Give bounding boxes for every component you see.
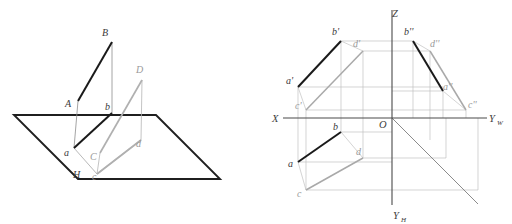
label-c-side: c'' [468, 99, 478, 110]
label-b-top: b [333, 121, 338, 132]
label-c: c [92, 171, 97, 182]
label-C: C [90, 151, 97, 162]
projection-figure: B D A b a C c d H [0, 0, 512, 224]
axis-label-z: Z [392, 8, 398, 19]
label-c-front: c' [295, 100, 302, 111]
label-H: H [72, 169, 81, 180]
label-b-side: b'' [404, 26, 414, 37]
label-D: D [135, 64, 144, 75]
label-a-front: a' [286, 75, 294, 86]
axis-label-origin: O [379, 119, 387, 130]
label-a-top: a [288, 158, 293, 169]
label-A: A [64, 98, 72, 109]
label-b-front: b' [332, 26, 340, 37]
axis-label-yh-subscript: H [400, 216, 407, 224]
label-B: B [102, 27, 108, 38]
label-a-side: a'' [443, 81, 453, 92]
axis-label-x: X [271, 113, 279, 124]
label-c-top: c [297, 188, 302, 199]
label-a: a [64, 147, 69, 158]
figure-canvas: B D A b a C c d H [0, 0, 512, 224]
label-d-side: d'' [430, 38, 440, 49]
label-b: b [105, 101, 110, 112]
label-d-front: d' [353, 38, 361, 49]
